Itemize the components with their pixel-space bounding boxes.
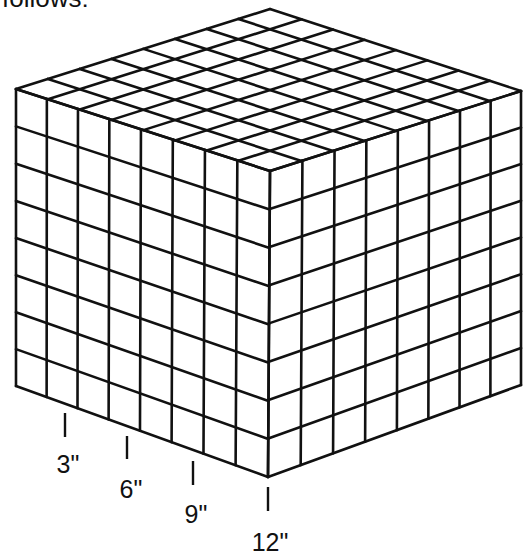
right-grid-line-v2 <box>270 164 522 247</box>
left-grid-line-v8 <box>16 386 268 477</box>
right-grid-line-v8 <box>268 385 521 477</box>
cube-top-face <box>16 9 521 171</box>
measure-label-9in: 9" <box>185 502 208 527</box>
cube-left-face <box>16 89 270 477</box>
left-grid-line-v6 <box>16 312 269 401</box>
left-grid-line-v4 <box>16 238 269 325</box>
right-grid-line-v4 <box>269 237 521 323</box>
left-grid-line-v7 <box>16 349 268 439</box>
right-grid-line-v5 <box>269 274 521 361</box>
cube-right-face <box>268 91 521 477</box>
measure-label-12in: 12" <box>252 530 289 553</box>
right-grid-line-v3 <box>269 201 521 285</box>
left-grid-line-v2 <box>16 164 270 248</box>
measure-label-6in: 6" <box>120 477 143 502</box>
measure-label-3in: 3" <box>57 452 80 477</box>
right-grid-line-v7 <box>268 348 521 438</box>
left-grid-line-v5 <box>16 275 269 363</box>
right-grid-line-v6 <box>269 311 522 400</box>
left-grid-line-v3 <box>16 201 269 286</box>
